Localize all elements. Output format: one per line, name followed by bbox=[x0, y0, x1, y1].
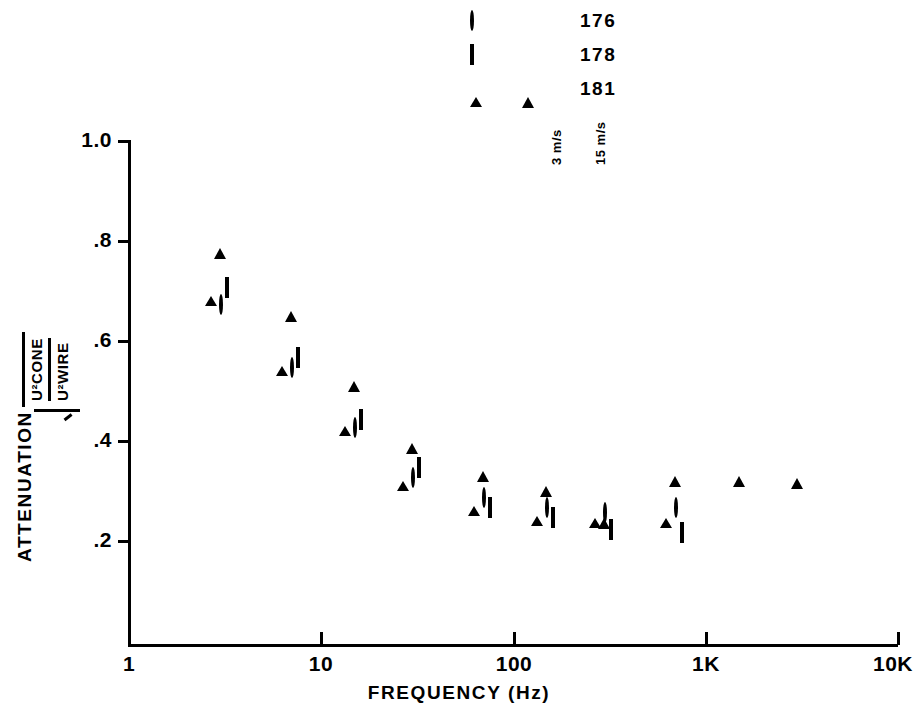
data-point bbox=[225, 279, 229, 297]
x-tick bbox=[320, 632, 323, 645]
x-tick bbox=[705, 632, 708, 645]
attenuation-vs-frequency-figure: 176 178 181 3 m/s 15 m/s 1.0 .8 .6 .4 .2 bbox=[0, 0, 918, 705]
x-tick-label: 10K bbox=[873, 652, 913, 676]
y-axis-title-radical: U²CONE U²WIRE bbox=[22, 332, 80, 420]
radical-sign-icon bbox=[22, 406, 80, 420]
data-point bbox=[290, 359, 294, 377]
y-axis-numerator: U²CONE bbox=[27, 338, 51, 401]
data-point bbox=[205, 279, 217, 297]
x-tick bbox=[513, 632, 516, 645]
data-point bbox=[660, 501, 672, 519]
x-tick-label: 1 bbox=[123, 652, 135, 676]
y-axis-denominator: U²WIRE bbox=[51, 338, 73, 401]
x-tick-label: 100 bbox=[496, 652, 533, 676]
x-tick bbox=[128, 632, 131, 645]
x-axis-title: FREQUENCY (Hz) bbox=[0, 682, 918, 704]
data-point bbox=[214, 231, 226, 249]
data-point bbox=[482, 489, 486, 507]
data-point bbox=[680, 524, 684, 542]
x-tick-label: 1K bbox=[692, 652, 720, 676]
data-point bbox=[540, 469, 552, 487]
x-tick bbox=[897, 632, 900, 645]
data-point bbox=[276, 349, 288, 367]
data-point bbox=[598, 501, 610, 519]
data-point bbox=[531, 499, 543, 517]
data-point bbox=[468, 489, 480, 507]
data-point bbox=[285, 294, 297, 312]
data-point bbox=[348, 364, 360, 382]
plot-area: 1.0 .8 .6 .4 .2 1 10 100 1K 10K FREQUENC… bbox=[0, 0, 918, 705]
data-point bbox=[339, 409, 351, 427]
y-axis-line bbox=[128, 140, 131, 647]
data-point bbox=[791, 461, 803, 479]
data-point bbox=[406, 426, 418, 444]
data-point bbox=[733, 459, 745, 477]
data-point bbox=[669, 459, 681, 477]
data-point bbox=[296, 349, 300, 367]
data-point bbox=[359, 411, 363, 429]
x-tick-label: 10 bbox=[309, 652, 333, 676]
data-point bbox=[411, 469, 415, 487]
data-point bbox=[477, 454, 489, 472]
data-point bbox=[417, 459, 421, 477]
y-axis-title-word: ATTENUATION bbox=[14, 411, 36, 562]
data-point bbox=[488, 499, 492, 517]
data-point bbox=[545, 499, 549, 517]
y-axis-title: ATTENUATION U²CONE U²WIRE bbox=[0, 0, 120, 705]
data-point bbox=[353, 419, 357, 437]
data-point bbox=[674, 499, 678, 517]
data-point bbox=[551, 509, 555, 527]
data-point bbox=[219, 296, 223, 314]
data-point bbox=[397, 464, 409, 482]
